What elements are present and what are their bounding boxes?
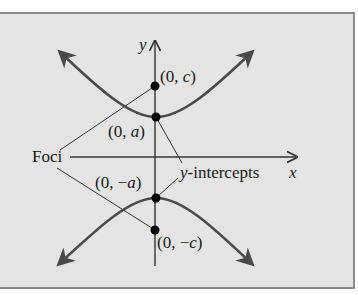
vertex-lower-label: (0, −a) — [95, 173, 141, 192]
x-axis-label: x — [288, 163, 297, 182]
intercept-pointer-lower — [157, 178, 178, 197]
hyperbola-diagram: y x (0, c) (0, a) (0, −a) (0, −c) Foci y… — [0, 0, 358, 295]
focus-lower-label: (0, −c) — [157, 233, 202, 252]
vertex-lower-point — [152, 194, 161, 203]
foci-label: Foci — [32, 147, 63, 166]
y-intercepts-label: y-intercepts — [178, 163, 259, 182]
vertex-upper-label: (0, a) — [108, 122, 145, 141]
intercept-pointer-upper — [156, 117, 182, 163]
y-axis-label: y — [137, 35, 147, 54]
vertex-upper-point — [152, 113, 161, 122]
focus-upper-label: (0, c) — [160, 67, 196, 86]
focus-upper-point — [151, 82, 160, 91]
